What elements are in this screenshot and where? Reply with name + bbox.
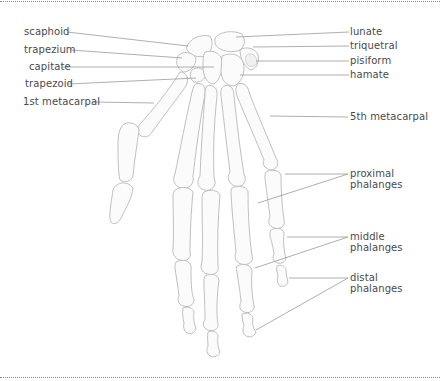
leader-middle-2 [255, 237, 348, 268]
middle-finger-bones [201, 190, 220, 356]
label-proximal-line1: proximal [350, 168, 403, 179]
label-first-metacarpal: 1st metacarpal [23, 96, 100, 107]
label-distal-line1: distal [350, 272, 403, 283]
label-trapezium: trapezium [24, 44, 76, 55]
little-distal-phalanx [277, 265, 288, 286]
label-capitate: capitate [29, 61, 71, 72]
leader-trapezium [71, 50, 182, 58]
leader-triquetral [253, 46, 349, 47]
fifth-metacarpal [236, 83, 278, 170]
ring-middle-phalanx [236, 264, 254, 312]
index-finger-bones [173, 188, 196, 334]
leader-lines-right [236, 32, 349, 330]
label-pisiform: pisiform [350, 55, 391, 66]
label-trapezoid: trapezoid [25, 78, 73, 89]
index-middle-phalanx [175, 260, 194, 306]
label-hamate: hamate [350, 69, 389, 80]
little-middle-phalanx [270, 228, 286, 263]
label-triquetral: triquetral [350, 40, 398, 51]
carpal-bones [177, 32, 259, 86]
middle-distal-phalanx [207, 331, 220, 357]
label-middle-line2: phalanges [350, 242, 403, 253]
index-proximal-phalanx [173, 188, 193, 261]
first-metacarpal-bone [138, 72, 188, 137]
leader-scaphoid [67, 32, 188, 46]
metacarpal-bones [174, 83, 278, 190]
leader-distal-2 [256, 278, 348, 330]
leader-lunate [236, 32, 349, 37]
label-fifth-metacarpal: 5th metacarpal [350, 111, 428, 122]
hamate-bone [221, 54, 244, 86]
label-proximal-line2: phalanges [350, 179, 403, 190]
leader-fifth-metacarpal [270, 116, 348, 117]
index-distal-phalanx [183, 307, 196, 333]
label-lunate: lunate [350, 26, 382, 37]
leader-first-metacarpal [92, 102, 154, 103]
little-proximal-phalanx [265, 170, 284, 228]
label-middle-line1: middle [350, 231, 403, 242]
little-finger-bones [265, 170, 288, 286]
middle-proximal-phalanx [201, 190, 220, 274]
thumb-distal-phalanx [110, 183, 133, 224]
thumb-proximal-phalanx [118, 123, 139, 182]
capitate-bone [203, 51, 222, 84]
label-proximal-phalanges: proximal phalanges [350, 168, 403, 190]
hand-bones-diagram: scaphoid trapezium capitate trapezoid 1s… [0, 0, 440, 381]
label-scaphoid: scaphoid [24, 26, 70, 37]
label-distal-line2: phalanges [350, 283, 403, 294]
ring-proximal-phalanx [231, 186, 252, 264]
label-distal-phalanges: distal phalanges [350, 272, 403, 294]
lunate-bone [215, 32, 244, 52]
ring-distal-phalanx [242, 313, 256, 337]
middle-middle-phalanx [203, 274, 219, 330]
label-middle-phalanges: middle phalanges [350, 231, 403, 253]
ring-finger-bones [231, 186, 256, 336]
